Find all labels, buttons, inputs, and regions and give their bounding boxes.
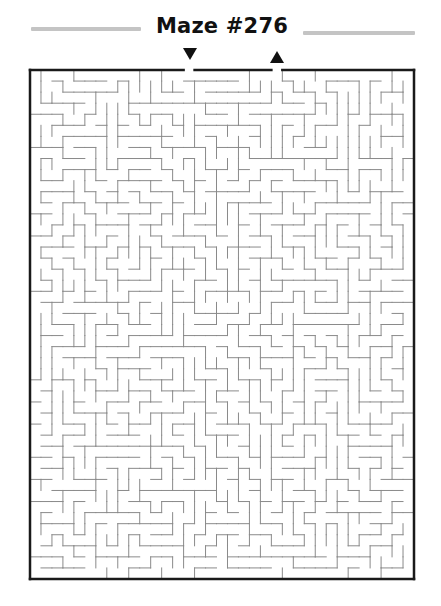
maze-grid[interactable] xyxy=(0,0,441,606)
